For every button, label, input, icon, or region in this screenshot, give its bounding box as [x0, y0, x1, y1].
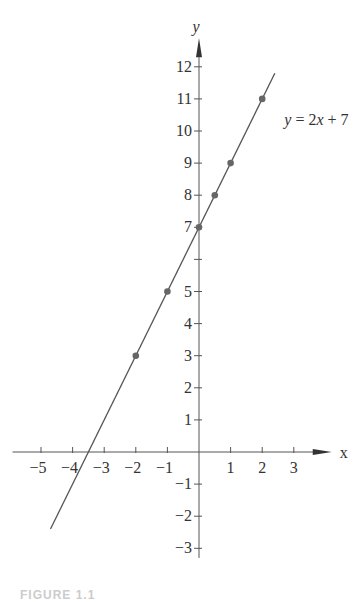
figure-caption: FIGURE 1.1	[20, 588, 95, 602]
y-tick-label: 4	[184, 315, 192, 332]
y-tick-label: 2	[184, 379, 192, 396]
x-tick-label: 2	[258, 459, 266, 476]
equation-label: y = 2x + 7	[282, 111, 348, 129]
x-axis-arrow-icon	[313, 449, 332, 455]
data-point	[227, 160, 234, 167]
data-point	[164, 288, 171, 295]
y-tick-label: 7	[184, 218, 192, 235]
x-tick-label: −1	[156, 459, 173, 476]
y-tick-label: −3	[175, 539, 192, 556]
y-tick-label: 12	[176, 58, 192, 75]
y-tick-label: 3	[184, 347, 192, 364]
y-tick-label: −2	[175, 507, 192, 524]
y-tick-label: 11	[177, 90, 192, 107]
x-tick-label: −3	[93, 459, 110, 476]
data-point	[259, 96, 266, 103]
x-tick-label: −2	[124, 459, 141, 476]
data-point	[196, 224, 203, 231]
x-tick-label: −5	[29, 459, 46, 476]
y-tick-label: 1	[184, 411, 192, 428]
x-tick-label: −4	[61, 459, 78, 476]
x-axis-label: x	[340, 444, 348, 461]
data-point	[133, 352, 140, 359]
x-tick-label: 3	[290, 459, 298, 476]
y-axis-label: y	[190, 18, 200, 36]
y-tick-label: −1	[175, 475, 192, 492]
y-axis-arrow-icon	[196, 38, 202, 57]
data-point	[212, 192, 219, 199]
y-tick-label: 5	[184, 283, 192, 300]
y-tick-label: 9	[184, 154, 192, 171]
y-tick-label: 10	[176, 122, 192, 139]
x-tick-label: 1	[227, 459, 235, 476]
y-tick-label: 8	[184, 186, 192, 203]
